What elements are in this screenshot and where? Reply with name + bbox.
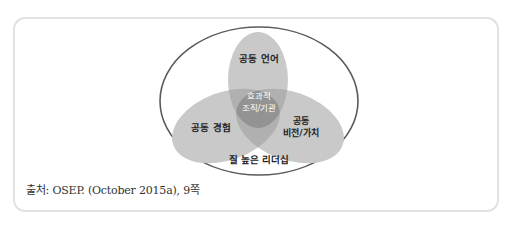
label-common-experience: 공동 경험	[191, 122, 230, 133]
label-center-line1: 효과적	[247, 91, 271, 101]
label-center-line2: 조직/기관	[242, 103, 277, 113]
label-quality-leadership: 질 높은 리더십	[229, 154, 290, 165]
label-common-language: 공동 언어	[239, 53, 278, 64]
label-common-vision-line1: 공동	[293, 116, 309, 126]
label-common-vision-line2: 비전/가치	[283, 127, 318, 138]
source-caption: 출처: OSEP. (October 2015a), 9쪽	[26, 181, 200, 197]
